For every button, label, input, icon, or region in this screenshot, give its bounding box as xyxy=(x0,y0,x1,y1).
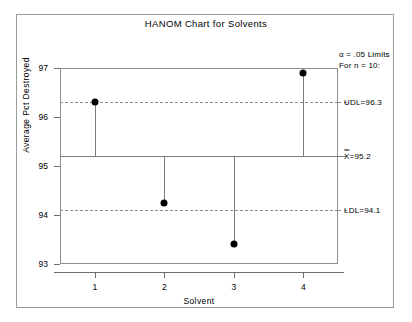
y-tick-label: 96 xyxy=(22,112,48,122)
limit-label-ldl: LDL=94.1 xyxy=(344,206,381,215)
data-stem xyxy=(95,102,96,156)
alpha-note-line-1: α = .05 Limits xyxy=(339,50,390,61)
data-point[interactable] xyxy=(161,199,168,206)
y-tick-label: 93 xyxy=(22,259,48,269)
reference-line-udl xyxy=(60,102,338,103)
x-tick-label: 4 xyxy=(301,282,306,292)
x-axis-label: Solvent xyxy=(60,296,338,306)
y-tick-label: 95 xyxy=(22,161,48,171)
y-tick xyxy=(54,264,60,265)
reference-line-center xyxy=(60,156,338,157)
plot-area xyxy=(60,68,338,264)
data-point[interactable] xyxy=(300,69,307,76)
x-tick-label: 3 xyxy=(231,282,236,292)
y-tick-label: 97 xyxy=(22,63,48,73)
alpha-limits-note: α = .05 Limits For n = 10: xyxy=(339,50,390,71)
x-tick xyxy=(95,272,96,278)
limit-label-udl: UDL=96.3 xyxy=(344,98,382,107)
x-tick-label: 2 xyxy=(162,282,167,292)
data-stem xyxy=(303,73,304,156)
grand-mean-value: =95.2 xyxy=(350,152,371,161)
x-tick xyxy=(164,272,165,278)
chart-canvas: HANOM Chart for Solvents Average Pct Des… xyxy=(0,0,412,322)
alpha-note-line-2: For n = 10: xyxy=(339,61,390,72)
x-axis-line xyxy=(54,272,344,273)
x-tick-label: 1 xyxy=(92,282,97,292)
x-symbol: X xyxy=(344,152,350,161)
y-tick-label: 94 xyxy=(22,210,48,220)
double-overbar: ═ xyxy=(344,147,349,150)
reference-line-ldl xyxy=(60,210,338,211)
data-point[interactable] xyxy=(91,99,98,106)
data-stem xyxy=(234,156,235,244)
data-stem xyxy=(164,156,165,203)
x-tick xyxy=(303,272,304,278)
grand-mean-symbol: ═X xyxy=(344,152,350,161)
limit-label-center: ═X=95.2 xyxy=(344,152,371,161)
x-tick xyxy=(234,272,235,278)
data-point[interactable] xyxy=(230,241,237,248)
chart-title: HANOM Chart for Solvents xyxy=(0,18,412,29)
